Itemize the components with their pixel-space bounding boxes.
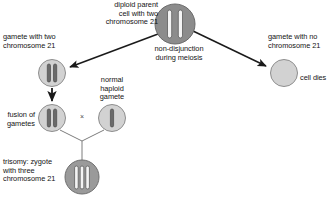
parent-chromosome-1 <box>168 10 172 38</box>
arrow-group <box>52 31 266 101</box>
fusion-gamete-chromosome-2 <box>54 109 57 127</box>
parent-cell-label: diploid parent cell with two chromosome … <box>78 1 158 27</box>
right-gamete-label: gamete with no chromosome 21 <box>268 33 336 50</box>
parent-chromosome-2 <box>178 10 182 38</box>
zygote-chromosome-2 <box>80 166 84 189</box>
zygote-chromosome-3 <box>86 166 90 189</box>
connector-fusion-to-junction <box>60 130 82 141</box>
fusion-gamete-membrane <box>39 105 66 132</box>
cross-symbol: × <box>77 113 87 120</box>
zygote-chromosome-1 <box>75 166 79 189</box>
normal-haploid-gamete-label: normal haploid gamete <box>86 76 138 102</box>
normal-gamete-chromosome-1 <box>110 109 113 127</box>
fusion-of-gametes-label: fusion of gametes <box>2 111 35 128</box>
trisomy-zygote-label: trisomy: zygote with three chromosome 21 <box>3 158 73 184</box>
cell-dies-label: cell dies <box>300 74 336 83</box>
connector-normal-to-junction <box>82 130 104 141</box>
right-gamete-membrane <box>271 60 298 87</box>
non-disjunction-label: non-disjunction during meiosis <box>138 45 220 62</box>
left-gamete-label: gamete with two chromosome 21 <box>3 33 81 50</box>
left-gamete-cell <box>39 60 66 87</box>
parent-cell <box>155 4 195 44</box>
fusion-gamete-chromosome-1 <box>47 109 50 127</box>
left-gamete-chromosome-2 <box>54 64 57 82</box>
connector-group <box>60 130 104 161</box>
diagram-canvas: diploid parent cell with two chromosome … <box>0 0 336 199</box>
parent-cell-membrane <box>155 4 195 44</box>
left-gamete-membrane <box>39 60 66 87</box>
fusion-gamete-cell <box>39 105 66 132</box>
left-gamete-chromosome-1 <box>47 64 50 82</box>
normal-gamete-cell <box>99 105 126 132</box>
right-gamete-cell <box>271 60 298 87</box>
